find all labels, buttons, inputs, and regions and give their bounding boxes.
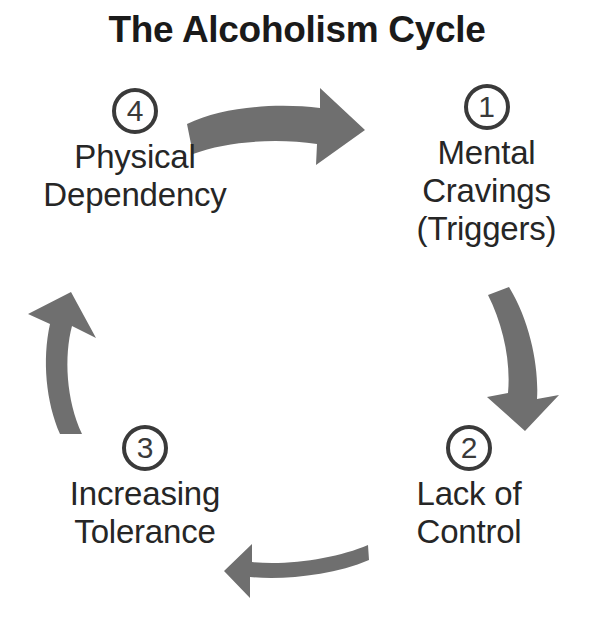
stage-3[interactable]: 3 Increasing Tolerance bbox=[30, 425, 260, 551]
stage-3-label: Increasing Tolerance bbox=[30, 475, 260, 551]
stage-4-label: Physical Dependency bbox=[10, 138, 260, 214]
arrow-left-up-icon bbox=[24, 290, 108, 438]
stage-4[interactable]: 4 Physical Dependency bbox=[10, 88, 260, 214]
stage-4-number-badge: 4 bbox=[112, 88, 158, 134]
stage-1-number-badge: 1 bbox=[464, 84, 510, 130]
stage-1-label: Mental Cravings (Triggers) bbox=[379, 134, 594, 248]
stage-1[interactable]: 1 Mental Cravings (Triggers) bbox=[379, 84, 594, 248]
arrow-right-down-icon bbox=[485, 283, 569, 435]
stage-2-number-badge: 2 bbox=[446, 425, 492, 471]
stage-2[interactable]: 2 Lack of Control bbox=[379, 425, 559, 551]
diagram-canvas: The Alcoholism Cycle 1 Mental Cravings (… bbox=[0, 0, 594, 624]
stage-2-label: Lack of Control bbox=[379, 475, 559, 551]
page-title: The Alcoholism Cycle bbox=[0, 8, 594, 52]
stage-3-number-badge: 3 bbox=[122, 425, 168, 471]
